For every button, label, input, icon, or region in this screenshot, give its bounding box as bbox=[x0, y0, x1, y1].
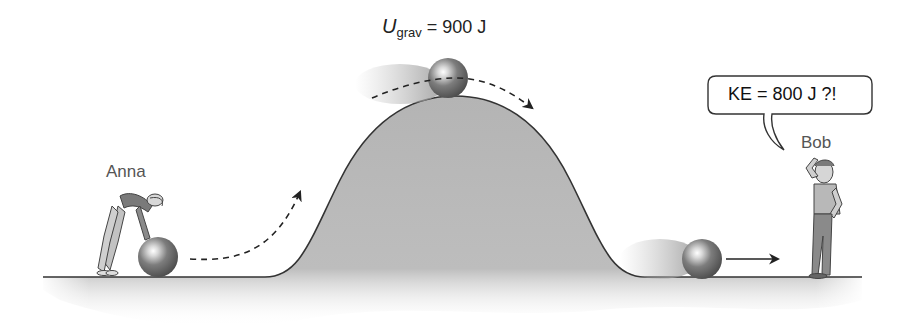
energy-symbol: U bbox=[382, 15, 396, 37]
ground-with-hill bbox=[40, 96, 865, 335]
trajectory-arrow-up bbox=[190, 192, 300, 259]
energy-subscript: grav bbox=[396, 25, 421, 40]
bob-figure bbox=[806, 158, 842, 279]
energy-value: = 900 J bbox=[422, 17, 487, 37]
anna-label: Anna bbox=[106, 162, 146, 182]
ball-end bbox=[682, 239, 722, 279]
potential-energy-label: Ugrav = 900 J bbox=[382, 15, 486, 40]
speech-bubble-text: KE = 800 J ?! bbox=[728, 84, 837, 105]
bob-label: Bob bbox=[801, 133, 831, 153]
ball-start bbox=[138, 237, 178, 277]
